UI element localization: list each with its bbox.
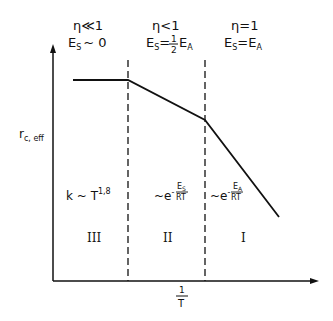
- rate-law-I-den: RT: [231, 193, 241, 202]
- y-axis-arrow-icon: [50, 44, 56, 53]
- y-axis-label: rc, eff: [19, 127, 44, 143]
- es-label-III: ES~ 0: [68, 35, 107, 52]
- half-num: 1: [171, 34, 177, 44]
- eta-label-III: η≪1: [73, 18, 103, 33]
- region-boundaries: [128, 60, 205, 281]
- axes: [53, 50, 312, 281]
- rate-law-II-num: ES: [177, 182, 186, 192]
- x-axis-label-num: 1: [179, 285, 185, 295]
- x-axis-arrow-icon: [310, 278, 319, 284]
- region-numeral-III: III: [87, 231, 101, 245]
- regime-diagram: η≪1 ES~ 0 η<1 ES= 1 2 EA η=1 ES=EA rc, e…: [0, 0, 333, 321]
- es-label-I: ES=EA: [224, 35, 262, 52]
- eta-label-II: η<1: [152, 18, 179, 33]
- rate-law-I-num: EA: [233, 182, 243, 192]
- region-numeral-I: I: [241, 231, 246, 245]
- eta-label-I: η=1: [231, 18, 258, 33]
- rate-law-II-den: RT: [176, 193, 186, 202]
- half-den: 2: [171, 45, 177, 55]
- rate-law-II: ~e-: [154, 188, 174, 203]
- rate-law-I: ~e-: [210, 188, 230, 203]
- region-numeral-II: II: [163, 231, 173, 245]
- es-label-II: ES=: [146, 35, 170, 52]
- ea-label-II: EA: [179, 35, 193, 52]
- rate-law-III: k ~ T1,8: [66, 187, 111, 203]
- x-axis-label-den: T: [177, 298, 185, 309]
